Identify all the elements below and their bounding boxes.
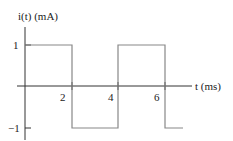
x-tick-label-6: 6 <box>154 91 160 103</box>
x-tick-label-2: 2 <box>60 91 66 103</box>
y-axis-label: i(t) (mA) <box>18 10 58 23</box>
y-tick-label-1: 1 <box>13 39 19 51</box>
x-axis-label: t (ms) <box>195 80 221 93</box>
y-tick-label-neg1: −1 <box>8 122 20 134</box>
square-wave-chart: i(t) (mA) t (ms) 1 −1 2 4 6 <box>0 0 233 141</box>
x-tick-label-4: 4 <box>108 91 114 103</box>
